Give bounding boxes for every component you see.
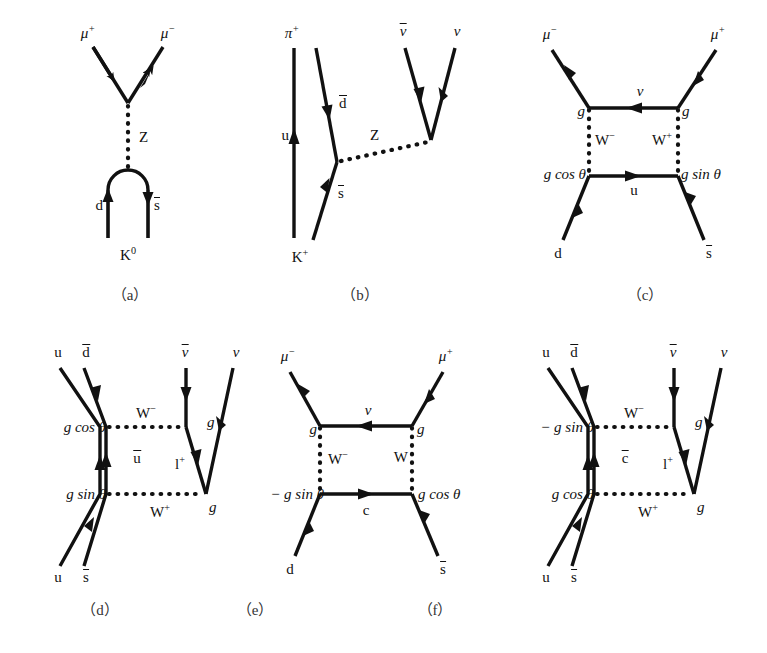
label-coupling-left-bottom-c: g cos θ	[544, 167, 586, 182]
label-nu-bar-d: ν	[182, 345, 189, 360]
label-quark-dbar-b: d	[339, 96, 347, 111]
label-nu-d: ν	[233, 345, 240, 360]
label-coupling-right-top-e: g	[417, 422, 425, 437]
label-quark-sbar-f: s	[571, 570, 577, 585]
label-quark-sbar-d: s	[83, 570, 89, 585]
caption-c: （c）	[627, 283, 664, 304]
label-mu-plus-e: μ+	[439, 347, 453, 364]
label-coupling-bottom-d: g sin θ	[66, 487, 106, 502]
label-quark-d-c: d	[554, 246, 562, 261]
label-lepton-d: l+	[175, 455, 185, 472]
caption-b: （b）	[341, 283, 379, 304]
label-coupling-right-bottom-e: g cos θ	[418, 487, 460, 502]
label-quark-d-e: d	[286, 562, 294, 577]
label-coupling-left-bottom-e: − g sin θ	[270, 487, 324, 502]
feynman-diagram-figure: μ+ μ− Z d s K0 （a） π+ ν ν u d Z s K+ （b）…	[0, 0, 767, 653]
label-kaon-b: K+	[292, 248, 309, 265]
diagram-canvas	[0, 0, 767, 653]
label-w-minus-d: W−	[136, 404, 156, 421]
label-quark-u-b: u	[282, 128, 290, 143]
label-mu-minus-e: μ−	[281, 347, 295, 364]
label-mu-plus-c: μ+	[711, 25, 725, 42]
label-quark-u-bottom-d: u	[54, 570, 62, 585]
caption-e: （e）	[237, 598, 274, 619]
label-w-minus-e: W−	[328, 450, 348, 467]
label-w-minus-f: W−	[624, 404, 644, 421]
label-quark-dbar-f: d	[570, 345, 578, 360]
label-coupling-g-bottom-d: g	[209, 500, 217, 515]
label-quark-dbar-d: d	[82, 345, 90, 360]
label-quark-sbar-b: s	[338, 186, 344, 201]
label-coupling-g-top-f: g	[695, 415, 703, 430]
label-z-boson-a: Z	[139, 130, 148, 145]
label-quark-u-top-f: u	[542, 345, 550, 360]
label-lepton-f: l+	[663, 455, 673, 472]
label-w-plus-f: W+	[638, 503, 658, 520]
label-z-boson-b: Z	[370, 128, 379, 143]
panel-e-lines	[290, 372, 443, 556]
caption-f: （f）	[418, 598, 453, 619]
label-quark-sbar-e: s	[440, 562, 446, 577]
label-coupling-top-d: g cos θ	[64, 420, 106, 435]
label-coupling-right-bottom-c: g sin θ	[681, 167, 721, 182]
caption-d: （d）	[81, 598, 119, 619]
label-w-minus-c: W−	[595, 131, 615, 148]
label-mu-minus-c: μ−	[543, 25, 557, 42]
panel-c-lines	[552, 50, 716, 240]
label-quark-u-bottom-f: u	[542, 570, 550, 585]
label-coupling-g-bottom-f: g	[697, 500, 705, 515]
label-coupling-left-top-c: g	[578, 104, 586, 119]
label-quark-cbar-f: c	[622, 451, 629, 466]
panel-b-lines	[289, 48, 456, 240]
label-mu-minus-a: μ−	[161, 24, 175, 41]
label-quark-d-a: d	[96, 198, 104, 213]
label-w-plus-c: W+	[652, 131, 672, 148]
label-quark-u-top-d: u	[54, 345, 62, 360]
label-w-plus-e: W	[394, 450, 408, 465]
label-w-plus-d: W+	[150, 503, 170, 520]
label-coupling-g-top-d: g	[207, 415, 215, 430]
label-nu-b: ν	[454, 24, 461, 39]
label-pion-b: π+	[285, 24, 299, 41]
label-coupling-bottom-f: g cos θ	[552, 487, 594, 502]
label-quark-sbar-c: s	[706, 246, 712, 261]
caption-a: （a）	[112, 283, 149, 304]
label-coupling-top-f: − g sin θ	[540, 420, 594, 435]
label-quark-sbar-a: s	[154, 198, 160, 213]
label-neutrino-c: ν	[637, 84, 644, 99]
panel-a-lines	[93, 47, 163, 238]
label-quark-ubar-d: u	[133, 451, 141, 466]
label-nu-f: ν	[721, 345, 728, 360]
label-quark-u-c: u	[630, 183, 638, 198]
label-nu-bar-f: ν	[670, 345, 677, 360]
label-kaon-a: K0	[120, 246, 136, 263]
label-quark-c-e: c	[363, 503, 370, 518]
label-neutrino-e: ν	[365, 403, 372, 418]
panel-f-lines	[548, 368, 721, 566]
panel-d-lines	[60, 368, 233, 566]
label-coupling-left-top-e: g	[310, 422, 318, 437]
label-nu-bar-b: ν	[400, 24, 407, 39]
label-mu-plus-a: μ+	[81, 24, 95, 41]
label-coupling-right-top-c: g	[682, 104, 690, 119]
